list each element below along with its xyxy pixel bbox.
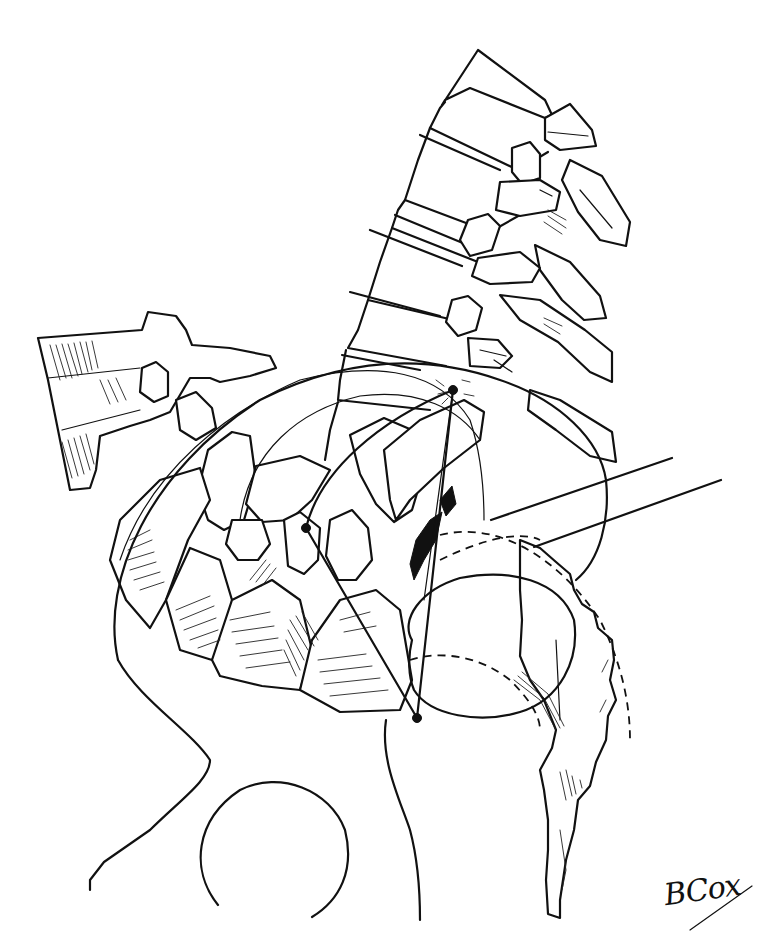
lumbar-spine <box>325 50 630 462</box>
anatomical-illustration <box>0 0 761 952</box>
sacrum-pelvis <box>110 400 484 712</box>
leader-line-1 <box>491 458 672 520</box>
lower-point <box>413 714 422 723</box>
coccyx <box>514 540 616 918</box>
upper-point <box>449 386 458 395</box>
posterior-point <box>302 524 311 533</box>
leader-line-2 <box>534 480 721 547</box>
